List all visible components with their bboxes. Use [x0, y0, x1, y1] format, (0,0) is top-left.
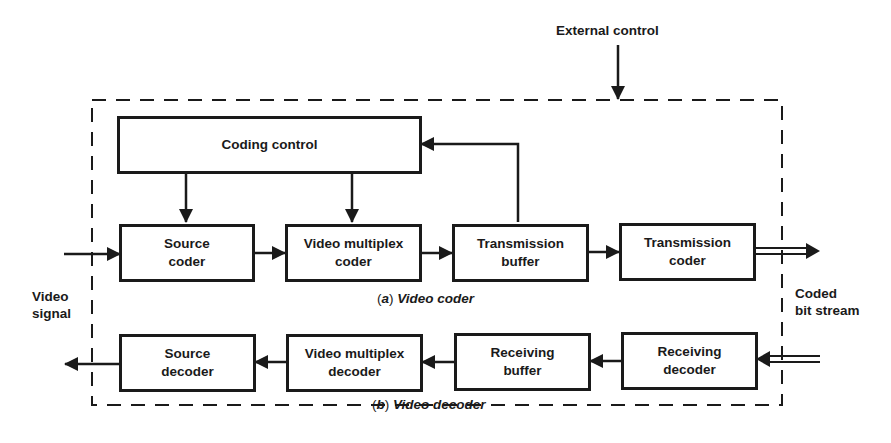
block-label: decoder — [658, 361, 722, 379]
coder-caption: (a) Video coder — [377, 291, 474, 306]
block-label: Receiving — [491, 344, 555, 362]
block-label: Source — [161, 345, 214, 363]
label-line: bit stream — [795, 302, 860, 319]
feedback-arrow — [421, 144, 518, 222]
source-coder-block: Sourcecoder — [119, 224, 255, 282]
decoder-caption: (b) Video decoder — [372, 397, 486, 412]
caption-text: Video coder — [397, 291, 474, 306]
coding-control-label: Coding control — [222, 136, 318, 154]
block-label: Source — [164, 235, 210, 253]
caption-letter: b — [377, 397, 385, 412]
video-signal-label: Video signal — [32, 288, 71, 322]
label-line: Coded — [795, 285, 860, 302]
block-label: Video multiplex — [304, 235, 404, 253]
source-decoder-block: Sourcedecoder — [119, 334, 256, 392]
block-label: decoder — [161, 363, 214, 381]
block-label: Transmission — [477, 235, 564, 253]
block-label: Transmission — [644, 234, 731, 252]
video-multiplex-decoder-block: Video multiplexdecoder — [286, 334, 423, 392]
block-label: coder — [164, 253, 210, 271]
caption-text: Video decoder — [393, 397, 486, 412]
coded-bit-stream-label: Coded bit stream — [795, 285, 860, 319]
receiving-buffer-block: Receivingbuffer — [454, 333, 591, 391]
video-multiplex-coder-block: Video multiplexcoder — [285, 224, 422, 282]
label-line: Video — [32, 288, 71, 305]
coding-control-block: Coding control — [117, 116, 422, 174]
transmission-buffer-block: Transmissionbuffer — [452, 224, 589, 282]
block-label: Video multiplex — [305, 345, 405, 363]
caption-letter: a — [382, 291, 390, 306]
block-label: buffer — [491, 362, 555, 380]
transmission-coder-block: Transmissioncoder — [619, 223, 756, 281]
block-label: coder — [304, 253, 404, 271]
label-line: signal — [32, 305, 71, 322]
block-label: buffer — [477, 253, 564, 271]
receiving-decoder-block: Receivingdecoder — [621, 332, 758, 390]
bitstream-input-arrow — [756, 351, 770, 367]
block-label: coder — [644, 252, 731, 270]
external-control-label: External control — [556, 22, 659, 39]
output-arrow — [806, 243, 820, 259]
block-label: decoder — [305, 363, 405, 381]
block-label: Receiving — [658, 343, 722, 361]
